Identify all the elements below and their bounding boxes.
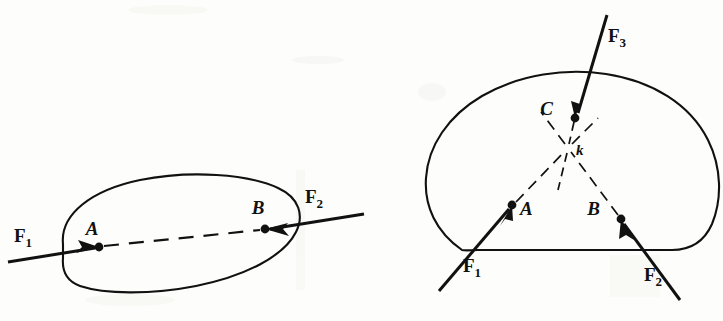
right-label-f1-base: F — [463, 255, 475, 276]
right-label-f2-base: F — [644, 264, 656, 285]
right-label-k: k — [576, 142, 584, 158]
right-point-b — [617, 215, 626, 224]
right-label-f2-sub: 2 — [656, 274, 663, 289]
right-label-f3-sub: 3 — [620, 35, 627, 50]
right-label-f3-base: F — [608, 25, 620, 46]
right-point-a — [508, 201, 517, 210]
left-label-f1-sub: 1 — [26, 235, 33, 250]
left-label-f1-base: F — [14, 225, 26, 246]
left-point-b — [261, 225, 270, 234]
right-label-a: A — [519, 198, 533, 219]
left-label-f2-sub: 2 — [317, 196, 324, 211]
left-point-a — [95, 243, 104, 252]
right-label-c: C — [540, 98, 553, 119]
force-diagram-figure: A B F1 F2 — [0, 0, 723, 321]
figure-canvas: A B F1 F2 — [0, 0, 723, 321]
right-label-b: B — [586, 198, 600, 219]
right-point-c — [571, 114, 580, 123]
left-label-b: B — [251, 197, 265, 218]
right-label-f1-sub: 1 — [475, 265, 482, 280]
left-label-f2-base: F — [305, 186, 317, 207]
left-label-a: A — [85, 218, 99, 239]
